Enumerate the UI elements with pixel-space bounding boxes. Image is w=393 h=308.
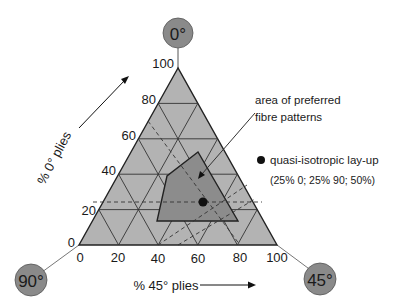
left-axis-label: % 0° plies (34, 128, 75, 187)
left-tick-100: 100 (152, 56, 174, 71)
bottom-axis-label: % 45° plies (133, 278, 199, 293)
bottom-tick-60: 60 (191, 251, 205, 266)
left-tick-20: 20 (82, 203, 96, 218)
left-axis-arrow-line (79, 80, 125, 128)
bottom-tick-100: 100 (266, 250, 288, 265)
bottom-tick-20: 20 (111, 250, 125, 265)
corner-label-0: 0° (170, 25, 186, 44)
bottom-tick-0: 0 (76, 250, 83, 265)
bottom-tick-40: 40 (151, 251, 165, 266)
bottom-axis-arrow-icon (248, 282, 256, 289)
bottom-axis-ticks: 0 20 40 60 80 100 (76, 250, 287, 266)
left-tick-60: 60 (122, 128, 136, 143)
quasi-isotropic-detail: (25% 0; 25% 90; 50%) (270, 174, 375, 186)
bottom-tick-80: 80 (233, 250, 247, 265)
left-tick-80: 80 (142, 92, 156, 107)
quasi-isotropic-point (199, 198, 208, 207)
corner-label-90: 90° (18, 272, 44, 291)
quasi-isotropic-label: quasi-isotropic lay-up (270, 154, 379, 166)
ternary-diagram: 0° 90° 45° 100 80 60 40 20 0 0 20 40 60 … (0, 0, 393, 308)
preferred-area-label-line1: area of preferred (255, 94, 341, 106)
left-tick-0: 0 (68, 235, 75, 250)
left-tick-40: 40 (102, 163, 116, 178)
corner-label-45: 45° (307, 271, 333, 290)
preferred-area-label-line2: fibre patterns (255, 111, 322, 123)
quasi-isotropic-legend-dot (257, 156, 265, 164)
